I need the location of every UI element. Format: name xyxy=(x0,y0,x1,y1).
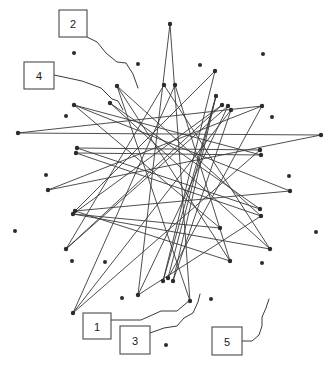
network-node xyxy=(288,189,292,193)
network-node xyxy=(220,103,224,107)
network-node xyxy=(71,212,75,216)
network-node xyxy=(161,279,165,283)
isolated-dot xyxy=(209,297,213,301)
isolated-dot xyxy=(287,174,291,178)
network-node xyxy=(228,259,232,263)
isolated-dot xyxy=(120,296,124,300)
network-node xyxy=(260,104,264,108)
network-node xyxy=(319,133,323,137)
isolated-dot xyxy=(70,259,74,263)
network-node xyxy=(258,207,262,211)
network-node xyxy=(171,279,175,283)
isolated-dot xyxy=(72,51,76,55)
network-node xyxy=(74,151,78,155)
callout-5[interactable]: 5 xyxy=(212,327,242,355)
network-node xyxy=(229,108,233,112)
network-node xyxy=(214,94,218,98)
network-node xyxy=(108,101,112,105)
callout-label-2: 2 xyxy=(70,18,76,30)
network-node xyxy=(213,69,217,73)
network-node xyxy=(226,104,230,108)
network-node xyxy=(268,247,272,251)
network-node xyxy=(173,83,177,87)
isolated-dot xyxy=(314,230,318,234)
network-node xyxy=(64,247,68,251)
isolated-dot xyxy=(260,261,264,265)
callout-3[interactable]: 3 xyxy=(120,326,150,354)
isolated-dot xyxy=(13,229,17,233)
network-node xyxy=(71,311,75,315)
callout-label-1: 1 xyxy=(94,321,100,333)
network-node xyxy=(162,83,166,87)
network-node xyxy=(72,103,76,107)
network-node xyxy=(188,299,192,303)
network-node xyxy=(259,153,263,157)
network-node xyxy=(16,131,20,135)
network-node xyxy=(115,84,119,88)
isolated-dot xyxy=(64,114,68,118)
network-node xyxy=(168,22,172,26)
network-node xyxy=(75,146,79,150)
isolated-dot xyxy=(270,115,274,119)
isolated-dot xyxy=(136,62,140,66)
isolated-dot xyxy=(164,343,168,347)
isolated-dot xyxy=(261,52,265,56)
network-node xyxy=(258,148,262,152)
network-node xyxy=(259,214,263,218)
callout-1[interactable]: 1 xyxy=(83,313,111,339)
isolated-dot xyxy=(198,63,202,67)
figure-root: 12345 xyxy=(0,0,332,373)
network-node xyxy=(46,188,50,192)
network-diagram: 12345 xyxy=(0,0,332,373)
callout-label-3: 3 xyxy=(132,335,138,347)
callout-label-5: 5 xyxy=(224,336,230,348)
network-node xyxy=(166,276,170,280)
network-node xyxy=(136,293,140,297)
callout-2[interactable]: 2 xyxy=(59,10,87,37)
isolated-dot xyxy=(44,173,48,177)
callout-label-4: 4 xyxy=(36,70,42,82)
callout-4[interactable]: 4 xyxy=(24,62,54,89)
network-node xyxy=(218,226,222,230)
isolated-dot xyxy=(103,260,107,264)
